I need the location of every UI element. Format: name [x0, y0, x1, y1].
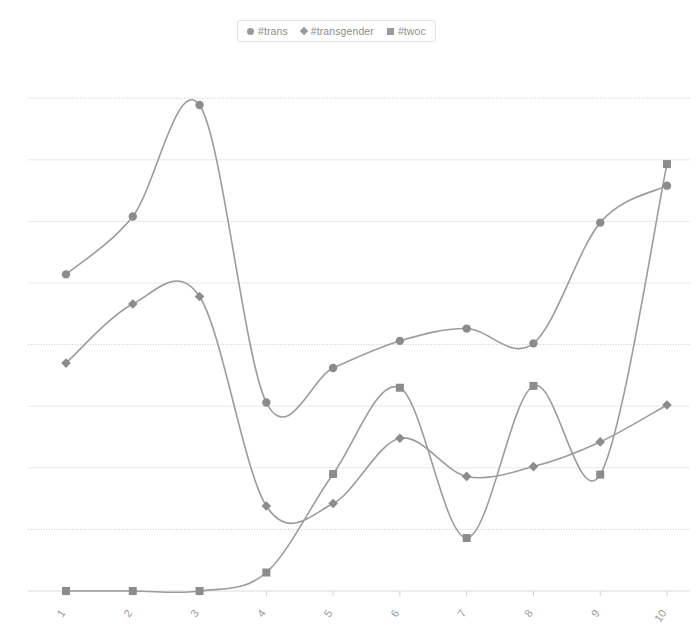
data-point[interactable] — [262, 569, 270, 577]
x-tick-label: 1 — [54, 607, 67, 619]
data-point[interactable] — [595, 437, 605, 447]
x-tick-label: 2 — [121, 607, 134, 619]
data-point[interactable] — [196, 587, 204, 595]
data-point[interactable] — [529, 382, 537, 390]
data-point[interactable] — [262, 398, 270, 406]
x-tick-label: 3 — [188, 607, 201, 619]
series-line-twoc — [66, 164, 667, 592]
data-point[interactable] — [396, 337, 404, 345]
data-point[interactable] — [396, 384, 404, 392]
data-point[interactable] — [328, 499, 338, 509]
series-line-transgender — [66, 281, 667, 523]
x-tick-label: 6 — [388, 607, 401, 619]
x-tick-label: 9 — [589, 607, 602, 619]
data-point[interactable] — [195, 101, 203, 109]
gridlines — [28, 98, 690, 529]
data-point[interactable] — [662, 400, 672, 410]
data-point[interactable] — [329, 470, 337, 478]
plot-area: 12345678910 — [0, 0, 697, 641]
data-point[interactable] — [62, 587, 70, 595]
data-point[interactable] — [129, 587, 137, 595]
data-point[interactable] — [596, 471, 604, 479]
data-point[interactable] — [529, 462, 539, 472]
data-point[interactable] — [329, 364, 337, 372]
x-tick-label: 10 — [652, 607, 669, 624]
x-axis-tick-labels: 12345678910 — [54, 607, 668, 624]
data-point[interactable] — [596, 218, 604, 226]
x-tick-label: 5 — [321, 607, 334, 619]
data-point[interactable] — [462, 324, 470, 332]
data-point[interactable] — [663, 160, 671, 168]
data-point[interactable] — [262, 501, 272, 511]
data-series — [66, 100, 667, 593]
data-point[interactable] — [462, 472, 472, 482]
data-point[interactable] — [663, 181, 671, 189]
data-point[interactable] — [129, 212, 137, 220]
data-point[interactable] — [463, 534, 471, 542]
x-tick-label: 7 — [455, 607, 468, 619]
x-tick-label: 8 — [522, 607, 535, 619]
data-point[interactable] — [128, 299, 138, 309]
chart-container: #trans #transgender #twoc 12345678910 — [0, 0, 697, 641]
data-point[interactable] — [529, 339, 537, 347]
x-tick-label: 4 — [255, 607, 268, 619]
series-line-trans — [66, 100, 667, 417]
data-point[interactable] — [395, 433, 405, 443]
data-point[interactable] — [62, 270, 70, 278]
